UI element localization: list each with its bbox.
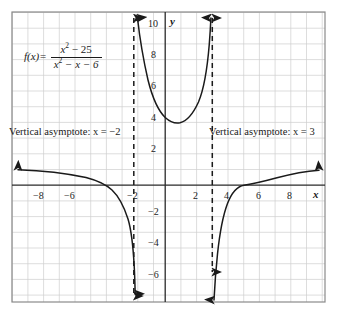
y-axis-label: y xyxy=(170,15,175,27)
right-asymptote-label: Vertical asymptote: x = 3 xyxy=(209,126,315,137)
y-tick-6: 6 xyxy=(151,80,156,91)
x-tick-neg2: −2 xyxy=(127,190,138,201)
x-tick-2: 2 xyxy=(193,190,198,201)
x-tick-neg6: −6 xyxy=(64,190,75,201)
x-tick-6: 6 xyxy=(256,190,261,201)
function-formula: f(x)= x2 − 25 x2 − x − 6 xyxy=(24,44,102,70)
x-tick-neg8: −8 xyxy=(33,190,44,201)
y-tick-2: 2 xyxy=(151,143,156,154)
formula-denominator: x2 − x − 6 xyxy=(51,57,102,71)
y-tick-neg4: −4 xyxy=(148,237,159,248)
numerator-rest: − 25 xyxy=(69,43,92,55)
x-axis-label: x xyxy=(313,188,319,200)
x-tick-4: 4 xyxy=(224,190,229,201)
y-tick-neg6: −6 xyxy=(148,269,159,280)
y-tick-4: 4 xyxy=(151,112,156,123)
formula-lhs: f(x)= xyxy=(24,51,47,63)
y-tick-8: 8 xyxy=(151,49,156,60)
x-tick-8: 8 xyxy=(287,190,292,201)
formula-fraction: x2 − 25 x2 − x − 6 xyxy=(51,44,102,70)
denominator-rest: − x − 6 xyxy=(62,58,98,70)
formula-numerator: x2 − 25 xyxy=(57,44,94,57)
figure-container: f(x)= x2 − 25 x2 − x − 6 Vertical asympt… xyxy=(0,0,340,312)
y-tick-10: 10 xyxy=(148,18,158,29)
left-asymptote-label: Vertical asymptote: x = −2 xyxy=(9,126,121,137)
y-tick-neg2: −2 xyxy=(148,206,159,217)
